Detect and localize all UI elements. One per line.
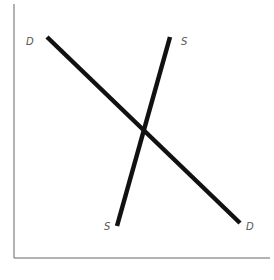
supply-label-top: S (181, 36, 188, 47)
demand-label-bottom: D (246, 221, 254, 232)
supply-curve (117, 37, 170, 226)
supply-label-bottom: S (104, 221, 111, 232)
supply-demand-diagram: D S S D (0, 0, 274, 280)
demand-label-top: D (26, 36, 34, 47)
